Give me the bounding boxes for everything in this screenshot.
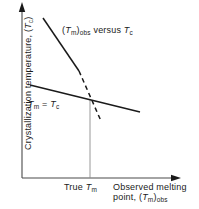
identity-symbol-tm: T bbox=[28, 99, 34, 109]
curve-annotation-word: versus bbox=[93, 25, 121, 35]
true-tm-tick-label: True Tm bbox=[64, 182, 97, 192]
curve-annotation-sub-m: m bbox=[71, 29, 77, 36]
curve-annotation-sub-c: c bbox=[130, 29, 133, 36]
curve-annotation-sub-obs: obs bbox=[80, 29, 91, 36]
curve-annotation-symbol-tc: T bbox=[124, 25, 130, 35]
x-axis-title: Observed melting point, (Tm)obs bbox=[113, 182, 199, 203]
y-axis-title: Crystallization temperature, (Tc) bbox=[23, 3, 33, 163]
x-axis-title-line1: Observed melting bbox=[113, 182, 187, 192]
true-tm-lead: True bbox=[64, 182, 83, 192]
y-axis-title-lead: Crystallization temperature, ( bbox=[23, 29, 33, 150]
y-axis-title-symbol: T bbox=[23, 23, 33, 29]
identity-sub-m: m bbox=[34, 103, 40, 110]
identity-equals: = bbox=[42, 99, 47, 109]
x-axis-title-sub-m: m bbox=[148, 196, 154, 203]
x-axis-title-line2-lead: point, ( bbox=[113, 192, 142, 202]
x-axis-title-symbol: T bbox=[142, 192, 148, 202]
y-axis-title-sub: c bbox=[27, 20, 34, 23]
x-axis-title-sub-obs: obs bbox=[157, 196, 168, 203]
identity-sub-c: c bbox=[56, 103, 59, 110]
true-tm-sub: m bbox=[91, 186, 97, 193]
identity-annotation: Tm = Tc bbox=[28, 99, 59, 109]
curve-annotation: (Tm)obs versus Tc bbox=[62, 25, 133, 35]
figure-container: Crystallization temperature, (Tc) (Tm)ob… bbox=[0, 0, 199, 209]
x-axis-arrowhead bbox=[171, 175, 181, 182]
